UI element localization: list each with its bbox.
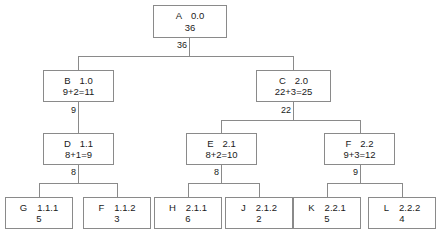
node-c-header: C 2.0 <box>279 75 308 86</box>
node-b[interactable]: B 1.0 9+2=11 <box>43 70 114 102</box>
node-a-code: 0.0 <box>191 10 204 21</box>
connector-d-bus <box>39 183 117 184</box>
edge-label-e-children: 8 <box>191 168 221 177</box>
node-a-value: 36 <box>185 22 196 33</box>
node-c-value: 22+3=25 <box>275 86 313 97</box>
node-f2-header: F 1.1.2 <box>99 202 136 213</box>
node-c-id: C <box>279 75 286 86</box>
node-e-header: E 2.1 <box>207 138 236 149</box>
node-h[interactable]: H 2.1.1 6 <box>154 197 222 229</box>
node-b-code: 1.0 <box>80 75 93 86</box>
node-f-id: F <box>345 138 351 149</box>
node-e-value: 8+2=10 <box>205 149 237 160</box>
node-d-code: 1.1 <box>80 138 93 149</box>
edge-label-f-children: 9 <box>330 168 360 177</box>
connector-e-stem <box>221 165 222 183</box>
connector-e-bus <box>188 183 259 184</box>
node-c-code: 2.0 <box>295 75 308 86</box>
connector-f-to-k <box>327 183 328 197</box>
connector-c-to-f <box>360 120 361 133</box>
node-j[interactable]: J 2.1.2 2 <box>225 197 293 229</box>
node-e-code: 2.1 <box>223 138 236 149</box>
node-c[interactable]: C 2.0 22+3=25 <box>256 70 331 102</box>
node-e[interactable]: E 2.1 8+2=10 <box>186 133 257 165</box>
node-b-id: B <box>64 75 70 86</box>
node-f-code: 2.2 <box>360 138 373 149</box>
connector-c-bus <box>221 120 361 121</box>
connector-a-to-c <box>293 56 294 70</box>
node-b-value: 9+2=11 <box>63 86 95 97</box>
connector-f-stem <box>360 165 361 183</box>
connector-b-to-d <box>78 102 79 133</box>
connector-a-stem <box>189 38 190 56</box>
node-d-id: D <box>64 138 71 149</box>
node-a[interactable]: A 0.0 36 <box>153 5 227 38</box>
connector-e-to-h <box>188 183 189 197</box>
node-l-header: L 2.2.2 <box>384 202 420 213</box>
node-h-code: 2.1.1 <box>186 202 207 213</box>
node-d-header: D 1.1 <box>64 138 93 149</box>
edge-label-a-children: 36 <box>159 41 189 50</box>
connector-c-to-e <box>221 120 222 133</box>
node-h-id: H <box>169 202 176 213</box>
node-j-id: J <box>241 202 246 213</box>
connector-d-stem <box>78 165 79 183</box>
connector-f-bus <box>327 183 402 184</box>
node-h-header: H 2.1.1 <box>169 202 207 213</box>
connector-a-bus <box>78 56 294 57</box>
node-k-id: K <box>308 202 314 213</box>
node-k[interactable]: K 2.2.1 5 <box>293 197 361 229</box>
edge-label-b-children: 9 <box>48 106 78 115</box>
node-k-value: 5 <box>324 213 329 224</box>
connector-f-to-l <box>402 183 403 197</box>
node-k-code: 2.2.1 <box>325 202 346 213</box>
edge-label-d-children: 8 <box>48 168 78 177</box>
node-d[interactable]: D 1.1 8+1=9 <box>43 133 114 165</box>
tree-diagram-canvas: 36 9 22 8 8 9 A 0.0 36 B 1.0 9+2=11 C 2.… <box>0 0 441 238</box>
node-f[interactable]: F 2.2 9+3=12 <box>324 133 395 165</box>
node-k-header: K 2.2.1 <box>308 202 345 213</box>
node-j-code: 2.1.2 <box>256 202 277 213</box>
node-g-header: G 1.1.1 <box>20 202 59 213</box>
connector-c-stem <box>293 102 294 120</box>
node-j-value: 2 <box>256 213 261 224</box>
connector-d-to-g <box>39 183 40 197</box>
node-g-id: G <box>20 202 27 213</box>
connector-d-to-f2 <box>117 183 118 197</box>
node-f2[interactable]: F 1.1.2 3 <box>83 197 151 229</box>
node-j-header: J 2.1.2 <box>241 202 277 213</box>
node-g[interactable]: G 1.1.1 5 <box>5 197 73 229</box>
node-l[interactable]: L 2.2.2 4 <box>368 197 436 229</box>
connector-e-to-j <box>259 183 260 197</box>
node-f-value: 9+3=12 <box>343 149 375 160</box>
node-h-value: 6 <box>185 213 190 224</box>
node-d-value: 8+1=9 <box>65 149 92 160</box>
node-b-header: B 1.0 <box>64 75 93 86</box>
node-l-id: L <box>384 202 389 213</box>
edge-label-c-children: 22 <box>263 106 293 115</box>
node-f2-id: F <box>99 202 105 213</box>
node-e-id: E <box>207 138 213 149</box>
node-g-value: 5 <box>36 213 41 224</box>
node-g-code: 1.1.1 <box>37 202 58 213</box>
node-a-id: A <box>176 10 182 21</box>
node-a-header: A 0.0 <box>176 10 205 21</box>
connector-a-to-b <box>78 56 79 70</box>
node-f-header: F 2.2 <box>345 138 373 149</box>
node-l-value: 4 <box>399 213 404 224</box>
node-l-code: 2.2.2 <box>399 202 420 213</box>
node-f2-code: 1.1.2 <box>114 202 135 213</box>
node-f2-value: 3 <box>114 213 119 224</box>
